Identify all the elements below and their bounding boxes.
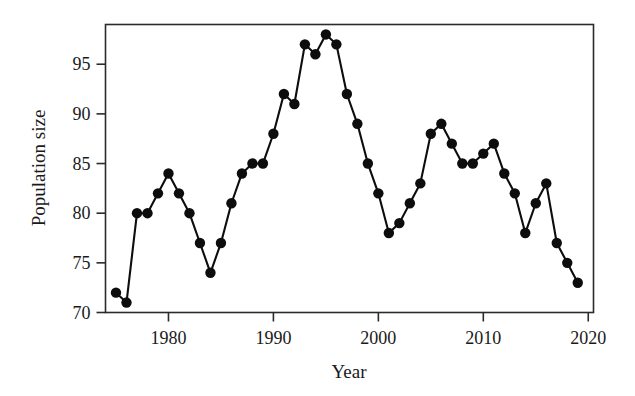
x-tick-label-2010: 2010 [465, 328, 501, 348]
data-point-2003 [405, 198, 415, 208]
x-axis-title: Year [331, 361, 367, 382]
y-tick-label-90: 90 [73, 104, 91, 124]
data-point-1978 [142, 208, 152, 218]
data-point-1989 [258, 158, 268, 168]
series-markers-population-size [111, 29, 583, 308]
x-axis-tick-group [168, 313, 588, 322]
data-point-1980 [163, 168, 173, 178]
x-axis-tick-labels: 19801990200020102020 [150, 328, 606, 348]
chart-canvas: 707580859095 19801990200020102020 Year P… [0, 0, 635, 396]
data-point-1995 [321, 29, 331, 39]
data-point-1977 [132, 208, 142, 218]
x-tick-label-1980: 1980 [150, 328, 186, 348]
data-point-2017 [552, 238, 562, 248]
data-point-1975 [111, 287, 121, 297]
x-tick-label-2020: 2020 [570, 328, 606, 348]
y-tick-label-80: 80 [73, 203, 91, 223]
data-point-2004 [415, 178, 425, 188]
data-point-2000 [373, 188, 383, 198]
data-point-2012 [499, 168, 509, 178]
data-point-2007 [447, 138, 457, 148]
data-point-1997 [342, 89, 352, 99]
data-point-2010 [478, 148, 488, 158]
data-point-1976 [121, 297, 131, 307]
data-point-1983 [195, 238, 205, 248]
data-point-2014 [520, 228, 530, 238]
y-tick-label-95: 95 [73, 54, 91, 74]
y-tick-label-70: 70 [73, 303, 91, 323]
data-point-2005 [426, 129, 436, 139]
data-point-1986 [226, 198, 236, 208]
data-point-1988 [247, 158, 257, 168]
y-axis-title: Population size [28, 110, 49, 227]
x-tick-label-1990: 1990 [255, 328, 291, 348]
data-point-2008 [457, 158, 467, 168]
y-tick-label-85: 85 [73, 154, 91, 174]
data-point-2016 [541, 178, 551, 188]
data-point-2015 [531, 198, 541, 208]
data-point-1984 [205, 268, 215, 278]
data-point-2009 [468, 158, 478, 168]
data-point-1998 [352, 119, 362, 129]
y-axis-tick-group [97, 64, 106, 312]
x-tick-label-2000: 2000 [360, 328, 396, 348]
data-point-1982 [184, 208, 194, 218]
data-point-1990 [268, 129, 278, 139]
data-point-2011 [489, 138, 499, 148]
population-size-line-chart: 707580859095 19801990200020102020 Year P… [0, 0, 635, 396]
data-point-1985 [216, 238, 226, 248]
data-point-1993 [300, 39, 310, 49]
data-point-1999 [363, 158, 373, 168]
data-point-2001 [384, 228, 394, 238]
series-line-population-size [116, 34, 578, 302]
data-point-1996 [331, 39, 341, 49]
data-point-1992 [289, 99, 299, 109]
data-point-2018 [562, 258, 572, 268]
plot-frame [106, 25, 594, 313]
data-point-1991 [279, 89, 289, 99]
y-axis-tick-labels: 707580859095 [73, 54, 91, 322]
data-point-2013 [510, 188, 520, 198]
data-point-1979 [153, 188, 163, 198]
data-point-1987 [237, 168, 247, 178]
y-tick-label-75: 75 [73, 253, 91, 273]
data-point-1994 [310, 49, 320, 59]
data-point-2002 [394, 218, 404, 228]
data-point-1981 [174, 188, 184, 198]
data-point-2019 [573, 278, 583, 288]
data-point-2006 [436, 119, 446, 129]
